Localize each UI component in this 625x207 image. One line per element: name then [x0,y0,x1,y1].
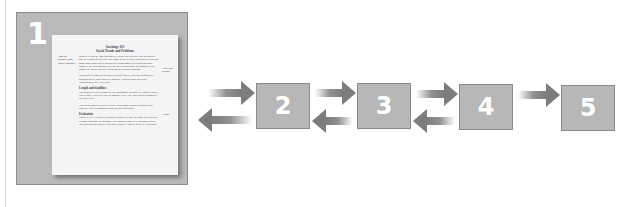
arrow-4-to-3 [413,109,455,133]
arrow-2-to-3 [315,81,356,105]
arrow-2-to-1 [198,108,252,132]
arrow-head [342,81,356,105]
arrow-shaft [208,89,241,97]
arrows-layer [0,0,625,207]
arrow-head [198,108,212,132]
arrow-head [444,82,458,106]
arrow-3-to-2 [312,109,353,133]
arrow-3-to-4 [416,82,458,106]
arrow-4-to-5 [518,83,560,107]
arrow-head [413,109,427,133]
arrow-shaft [326,117,353,125]
arrow-head [312,109,326,133]
arrow-head [546,83,560,107]
arrow-head [241,81,255,105]
arrow-shaft [416,90,444,98]
arrow-shaft [315,89,342,97]
arrow-shaft [427,117,455,125]
arrow-shaft [212,116,252,124]
arrow-shaft [518,91,546,99]
arrow-1-to-2 [208,81,255,105]
